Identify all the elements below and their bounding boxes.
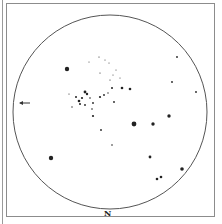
star bbox=[91, 108, 93, 110]
star bbox=[92, 115, 94, 117]
star bbox=[98, 56, 99, 57]
north-label: N bbox=[104, 208, 111, 218]
star bbox=[171, 81, 173, 83]
star bbox=[75, 96, 77, 98]
star bbox=[167, 114, 170, 117]
star bbox=[195, 91, 197, 93]
star bbox=[92, 102, 94, 104]
star bbox=[180, 167, 184, 171]
star bbox=[49, 156, 53, 160]
star bbox=[132, 122, 137, 127]
star bbox=[65, 67, 69, 71]
star bbox=[129, 88, 132, 91]
star bbox=[84, 91, 87, 94]
star bbox=[68, 93, 69, 94]
star bbox=[99, 96, 101, 98]
star bbox=[109, 63, 110, 64]
star bbox=[121, 87, 124, 90]
star bbox=[81, 97, 83, 99]
star bbox=[79, 103, 81, 105]
stars-group bbox=[49, 56, 197, 180]
pointer-arrow-icon bbox=[19, 101, 30, 105]
star bbox=[78, 100, 81, 103]
star bbox=[89, 62, 90, 63]
star bbox=[151, 122, 154, 125]
star bbox=[89, 97, 91, 99]
star bbox=[100, 129, 102, 131]
star bbox=[99, 72, 100, 73]
star bbox=[160, 176, 163, 179]
star-field bbox=[0, 0, 222, 224]
star bbox=[107, 92, 108, 93]
star bbox=[113, 101, 115, 103]
star bbox=[105, 60, 106, 61]
star bbox=[109, 79, 110, 80]
star bbox=[116, 70, 117, 71]
star bbox=[111, 144, 113, 146]
star bbox=[149, 156, 152, 159]
star bbox=[84, 104, 86, 106]
star bbox=[86, 93, 88, 95]
star bbox=[71, 106, 72, 107]
star bbox=[113, 75, 114, 76]
star bbox=[120, 78, 121, 79]
field-circle bbox=[13, 15, 207, 209]
star bbox=[176, 56, 178, 58]
star bbox=[156, 178, 159, 181]
star bbox=[111, 87, 113, 89]
star bbox=[103, 94, 105, 96]
